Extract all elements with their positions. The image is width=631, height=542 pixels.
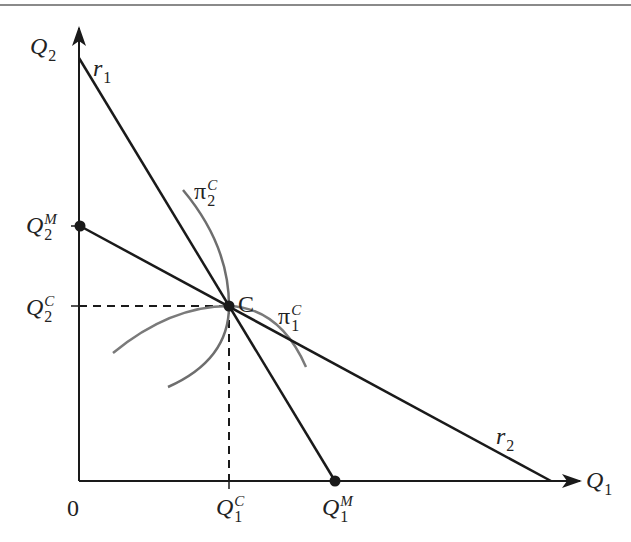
q2c-label: QC2 (26, 294, 54, 325)
origin-label: 0 (67, 496, 79, 520)
q1m-label: QM1 (322, 494, 353, 525)
pi2-label: πC2 (194, 178, 217, 209)
q1c-label: QC1 (216, 494, 244, 525)
reaction-line-r2 (80, 226, 551, 481)
q2m-label: QM2 (26, 212, 57, 243)
x-axis-label: Q1 (586, 468, 612, 492)
pi1-label: πC1 (278, 303, 301, 334)
r1-label: r1 (93, 56, 111, 80)
point-c (224, 301, 235, 312)
point-c-label: C (238, 292, 254, 316)
reaction-line-r1 (79, 58, 335, 481)
diagram-canvas (0, 0, 631, 542)
point-q2m (75, 221, 86, 232)
y-axis-label: Q2 (30, 34, 56, 58)
point-q1m (330, 476, 341, 487)
r2-label: r2 (496, 424, 514, 448)
